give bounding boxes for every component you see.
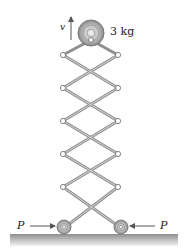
velocity-label: v xyxy=(60,22,65,32)
force-right-label: P xyxy=(160,219,167,232)
ground xyxy=(10,234,178,246)
force-left-label: P xyxy=(17,219,24,232)
roller-left xyxy=(57,220,71,234)
scissor-lift-diagram xyxy=(0,0,186,252)
mass-pulley xyxy=(78,20,104,46)
roller-right xyxy=(114,220,128,234)
mass-label: 3 kg xyxy=(110,25,134,38)
scissor-links xyxy=(63,40,121,228)
